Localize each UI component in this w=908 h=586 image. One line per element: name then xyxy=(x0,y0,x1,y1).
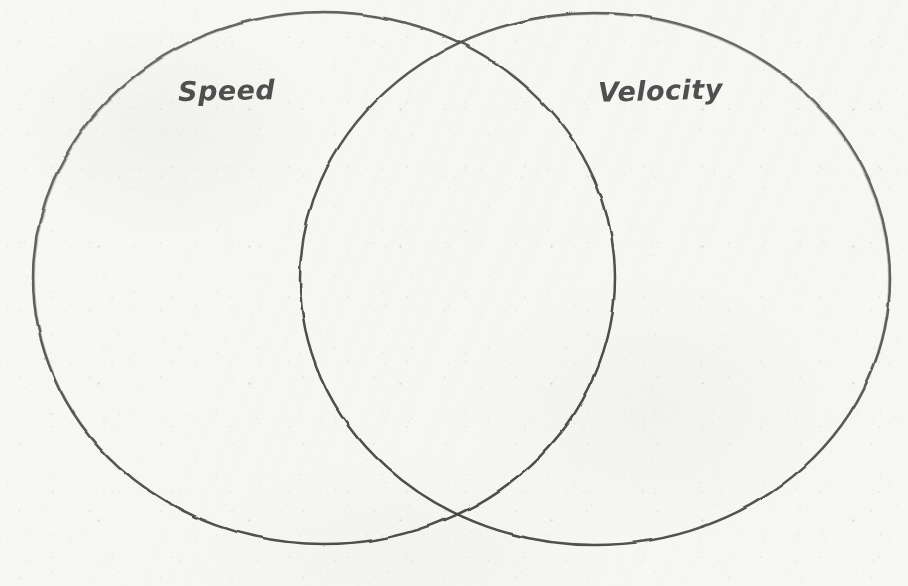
venn-diagram-worksheet: Speed Velocity xyxy=(0,0,908,586)
venn-circle-velocity xyxy=(300,13,890,545)
venn-label-speed: Speed xyxy=(178,75,276,108)
venn-diagram-drawing xyxy=(0,0,908,586)
venn-label-velocity: Velocity xyxy=(598,74,724,108)
venn-circle-speed xyxy=(33,12,615,544)
